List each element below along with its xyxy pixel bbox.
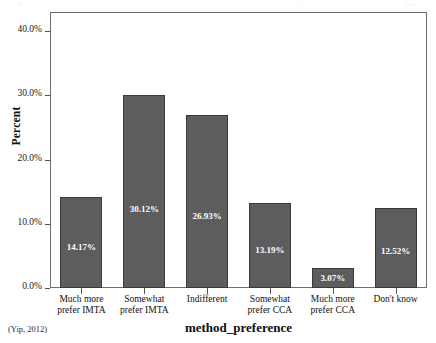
x-axis-label-line-1: prefer CCA xyxy=(298,305,368,316)
y-tick-label: 20.0% xyxy=(17,153,42,163)
x-axis-label-line-0: Don't know xyxy=(361,294,431,305)
x-axis-label-line-1: prefer IMTA xyxy=(46,305,116,316)
y-tick-3: 30.0% xyxy=(0,95,50,96)
bar-value-label: 12.52% xyxy=(376,246,416,256)
y-tick-label: 30.0% xyxy=(17,88,42,98)
clipped-fragment-1: ⌐ xyxy=(18,0,23,9)
bar-value-label: 26.93% xyxy=(187,211,227,221)
x-axis-label-line-0: Somewhat xyxy=(109,294,179,305)
bar-value-label: 14.17% xyxy=(61,242,101,252)
bar-4[interactable]: 3.07% xyxy=(312,268,354,288)
x-axis-label-4: Much moreprefer CCA xyxy=(298,294,368,316)
bar-value-label: 30.12% xyxy=(124,204,164,214)
bar-3[interactable]: 13.19% xyxy=(249,203,291,288)
bar-value-label: 13.19% xyxy=(250,245,290,255)
y-tick-4: 40.0% xyxy=(0,31,50,32)
clipped-caption-strip: ⌐ ⌐ ⌐⌐ xyxy=(0,0,436,9)
y-tick-1: 10.0% xyxy=(0,224,50,225)
y-tick-label: 40.0% xyxy=(17,24,42,34)
y-tick-mark xyxy=(45,288,50,289)
x-axis-label-1: Somewhatprefer IMTA xyxy=(109,294,179,316)
bars-layer: 14.17%30.12%26.93%13.19%3.07%12.52% xyxy=(50,12,427,288)
y-tick-label: 10.0% xyxy=(17,217,42,227)
y-tick-label: 0.0% xyxy=(22,281,42,291)
bar-value-label: 3.07% xyxy=(313,273,353,283)
x-axis-title: method_preference xyxy=(50,320,427,336)
bar-chart-figure: ⌐ ⌐ ⌐⌐ Percent 0.0%10.0%20.0%30.0%40.0% … xyxy=(0,0,436,343)
x-axis-label-line-0: Much more xyxy=(46,294,116,305)
x-axis-label-3: Somewhatprefer CCA xyxy=(235,294,305,316)
bar-5[interactable]: 12.52% xyxy=(375,208,417,288)
bar-0[interactable]: 14.17% xyxy=(60,197,102,288)
bar-1[interactable]: 30.12% xyxy=(123,95,165,288)
y-tick-2: 20.0% xyxy=(0,160,50,161)
x-axis-label-line-1: prefer IMTA xyxy=(109,305,179,316)
x-axis-label-line-0: Indifferent xyxy=(172,294,242,305)
source-citation: (Yip, 2012) xyxy=(8,324,47,334)
x-axis-label-5: Don't know xyxy=(361,294,431,305)
y-tick-0: 0.0% xyxy=(0,288,50,289)
x-axis-label-2: Indifferent xyxy=(172,294,242,305)
x-axis-label-line-1: prefer CCA xyxy=(235,305,305,316)
x-axis-label-line-0: Somewhat xyxy=(235,294,305,305)
bar-2[interactable]: 26.93% xyxy=(186,115,228,288)
clipped-fragment-2: ⌐ xyxy=(300,0,305,9)
clipped-fragment-3: ⌐⌐ xyxy=(405,0,414,9)
x-axis-label-line-0: Much more xyxy=(298,294,368,305)
x-axis-label-0: Much moreprefer IMTA xyxy=(46,294,116,316)
